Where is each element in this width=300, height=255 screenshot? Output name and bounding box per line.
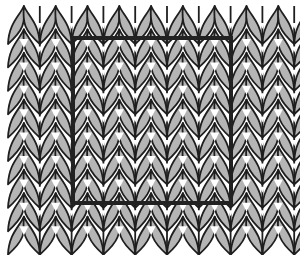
spine-gap [37,140,42,146]
spine-gap [69,23,74,29]
spine-gap [101,140,106,146]
spine-gap [196,163,201,169]
spine-gap [37,117,42,123]
spine-gap [37,23,42,29]
spine-gap [292,23,297,29]
spine-gap [101,93,106,99]
knit-swatch-diagram [0,0,300,255]
spine-gap [165,23,170,29]
spine-gap [260,23,265,29]
spine-gap [292,187,297,193]
spine-gap [292,163,297,169]
spine-gap [196,210,201,216]
spine-gap [165,46,170,52]
spine-gap [260,117,265,123]
spine-gap [37,187,42,193]
spine-gap [260,93,265,99]
spine-gap [165,117,170,123]
spine-gap [292,46,297,52]
spine-gap [133,117,138,123]
spine-gap [260,140,265,146]
spine-gap [260,187,265,193]
spine-gap [101,46,106,52]
spine-gap [228,23,233,29]
spine-gap [196,23,201,29]
spine-gap [165,140,170,146]
spine-gap [196,70,201,76]
spine-gap [165,93,170,99]
spine-gap [165,70,170,76]
spine-gap [133,140,138,146]
spine-gap [196,117,201,123]
spine-gap [292,117,297,123]
spine-gap [292,140,297,146]
spine-gap [260,46,265,52]
spine-gap [133,163,138,169]
spine-gap [228,210,233,216]
spine-gap [196,93,201,99]
spine-gap [260,210,265,216]
spine-gap [101,187,106,193]
stitch-grid [8,6,300,255]
spine-gap [165,187,170,193]
spine-gap [196,46,201,52]
spine-gap [101,210,106,216]
spine-gap [165,210,170,216]
spine-gap [292,210,297,216]
spine-gap [260,70,265,76]
spine-gap [101,70,106,76]
spine-gap [292,70,297,76]
spine-gap [133,210,138,216]
spine-gap [133,187,138,193]
spine-gap [101,23,106,29]
spine-gap [165,163,170,169]
spine-gap [101,117,106,123]
spine-gap [133,46,138,52]
spine-gap [260,163,265,169]
spine-gap [37,93,42,99]
spine-gap [101,163,106,169]
spine-gap [196,187,201,193]
spine-gap [292,93,297,99]
spine-gap [69,210,74,216]
spine-gap [37,46,42,52]
spine-gap [196,140,201,146]
spine-gap [133,23,138,29]
spine-gap [133,93,138,99]
spine-gap [37,163,42,169]
spine-gap [133,70,138,76]
spine-gap [37,210,42,216]
spine-gap [37,70,42,76]
